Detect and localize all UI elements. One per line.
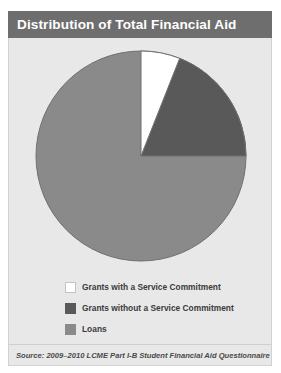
legend-swatch-loans <box>65 324 76 335</box>
legend-swatch-grants-with-service <box>65 282 76 293</box>
source-note: Source: 2009–2010 LCME Part I-B Student … <box>9 351 270 360</box>
legend-item-loans: Loans <box>65 319 273 340</box>
legend-label-grants-without-service: Grants without a Service Commitment <box>82 304 234 312</box>
chart-legend: Grants with a Service Commitment Grants … <box>65 277 273 340</box>
chart-title-bar: Distribution of Total Financial Aid <box>8 11 272 38</box>
pie-chart-svg <box>35 50 247 262</box>
chart-area: Grants with a Service Commitment Grants … <box>8 38 272 344</box>
legend-item-grants-without-service: Grants without a Service Commitment <box>65 298 273 319</box>
legend-label-grants-with-service: Grants with a Service Commitment <box>82 283 221 291</box>
legend-label-loans: Loans <box>82 325 107 333</box>
page-title: Distribution of Total Financial Aid <box>8 17 236 32</box>
legend-item-grants-with-service: Grants with a Service Commitment <box>65 277 273 298</box>
pie-chart <box>35 50 247 262</box>
source-bar: Source: 2009–2010 LCME Part I-B Student … <box>8 344 272 366</box>
legend-swatch-grants-without-service <box>65 303 76 314</box>
financial-aid-pie-figure: Distribution of Total Financial Aid Gran… <box>0 0 281 373</box>
